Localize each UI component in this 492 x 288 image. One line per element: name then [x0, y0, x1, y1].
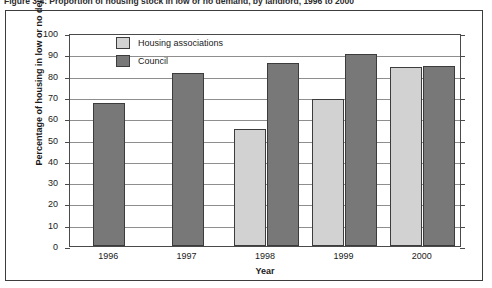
axis-tick	[460, 248, 465, 249]
axis-tick	[460, 163, 465, 164]
y-tick-label: 50	[48, 136, 58, 146]
x-tick-label: 1998	[255, 251, 275, 261]
x-tick-label: 1999	[333, 251, 353, 261]
chart-legend: Housing associationsCouncil	[116, 37, 276, 73]
y-axis-tick-labels: 1009080706050403020100	[6, 34, 64, 247]
axis-tick	[460, 184, 465, 185]
axis-tick	[65, 163, 70, 164]
bar-council-1999	[345, 54, 377, 246]
legend-swatch-icon	[116, 37, 130, 49]
x-axis-tick-labels: 19961997199819992000	[69, 251, 461, 265]
bar-council-1998	[267, 63, 299, 246]
legend-label: Housing associations	[138, 38, 223, 48]
axis-tick	[65, 205, 70, 206]
axis-tick	[460, 205, 465, 206]
x-tick-label: 1997	[177, 251, 197, 261]
axis-tick	[460, 120, 465, 121]
figure-frame: Percentage of housing in low or no deman…	[5, 10, 483, 281]
y-tick-label: 100	[43, 29, 58, 39]
axis-tick	[65, 78, 70, 79]
axis-tick	[460, 99, 465, 100]
bar-council-2000	[423, 66, 455, 246]
x-tick-label: 2000	[412, 251, 432, 261]
axis-tick	[65, 142, 70, 143]
axis-tick	[460, 227, 465, 228]
axis-tick	[460, 35, 465, 36]
y-tick-label: 30	[48, 178, 58, 188]
axis-tick	[65, 35, 70, 36]
x-axis-title: Year	[69, 266, 461, 276]
axis-tick	[65, 56, 70, 57]
legend-item: Council	[116, 55, 276, 67]
y-tick-label: 80	[48, 72, 58, 82]
y-tick-label: 40	[48, 157, 58, 167]
figure-caption: Figure 3.4: Proportion of housing stock …	[4, 0, 354, 6]
bar-council-1997	[172, 73, 204, 246]
y-tick-label: 60	[48, 114, 58, 124]
axis-tick	[460, 142, 465, 143]
bar-housing-associations-1998	[234, 129, 266, 246]
axis-tick	[65, 99, 70, 100]
y-tick-label: 20	[48, 199, 58, 209]
axis-tick	[460, 56, 465, 57]
legend-swatch-icon	[116, 55, 130, 67]
y-tick-label: 0	[53, 242, 58, 252]
y-tick-label: 90	[48, 50, 58, 60]
y-tick-label: 10	[48, 221, 58, 231]
bar-housing-associations-2000	[390, 67, 422, 246]
axis-tick	[65, 120, 70, 121]
figure-caption-strip: Figure 3.4: Proportion of housing stock …	[0, 0, 492, 9]
legend-item: Housing associations	[116, 37, 276, 49]
legend-label: Council	[138, 56, 168, 66]
bar-council-1996	[93, 103, 125, 246]
x-tick-label: 1996	[98, 251, 118, 261]
axis-tick	[65, 227, 70, 228]
bar-housing-associations-1999	[312, 99, 344, 246]
axis-tick	[65, 248, 70, 249]
axis-tick	[460, 78, 465, 79]
axis-tick	[65, 184, 70, 185]
y-tick-label: 70	[48, 93, 58, 103]
